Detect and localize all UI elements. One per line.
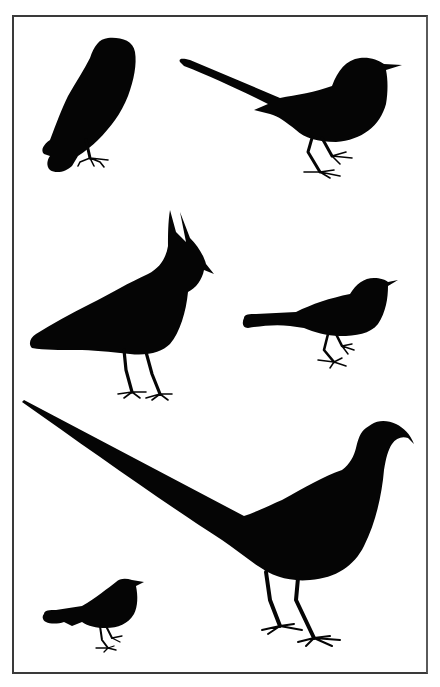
bird-silhouettes-illustration: Owl Magpie Lapwing Blackbird Pheasant Ro… [0, 0, 440, 687]
magpie-silhouette-icon: Magpie [180, 58, 402, 178]
robin-silhouette-icon: Robin [43, 579, 144, 652]
blackbird-silhouette-icon: Blackbird [243, 278, 398, 368]
owl-silhouette-icon: Owl [42, 38, 135, 172]
lapwing-silhouette-icon: Lapwing [30, 210, 214, 400]
